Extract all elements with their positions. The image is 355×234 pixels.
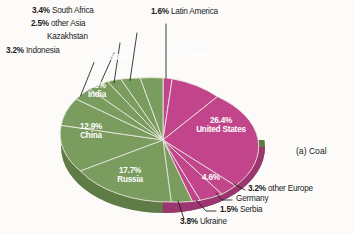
label-other-asia-pct: 2.5% bbox=[31, 19, 49, 28]
label-kazakhstan-inside-pct: 3.8% bbox=[104, 54, 134, 63]
label-latin-america-pct: 1.6% bbox=[151, 7, 169, 16]
label-australia-name: Australia bbox=[165, 49, 217, 58]
label-india-pct: 6.8% bbox=[77, 81, 117, 90]
label-india: 6.8% India bbox=[77, 81, 117, 99]
label-china-name: China bbox=[69, 131, 113, 140]
label-kazakhstan-name: Kazakhstan bbox=[47, 32, 88, 41]
label-australia-pct: 8.6% bbox=[165, 40, 217, 49]
label-south-africa-pct: 3.4% bbox=[32, 6, 50, 15]
label-other-europe: 3.2% other Europe bbox=[248, 185, 313, 194]
label-united-states-name: United States bbox=[185, 125, 257, 134]
label-south-africa: 3.4% South Africa bbox=[32, 7, 94, 16]
label-germany: Germany bbox=[236, 195, 268, 204]
label-latin-america-name: Latin America bbox=[171, 7, 218, 16]
label-other-europe-pct: 3.2% bbox=[248, 184, 266, 193]
label-indonesia-name: Indonesia bbox=[26, 46, 60, 55]
label-china-pct: 12.9% bbox=[69, 122, 113, 131]
label-china: 12.9% China bbox=[69, 122, 113, 140]
label-united-states: 26.4% United States bbox=[185, 116, 257, 134]
label-indonesia: 3.2% Indonesia bbox=[6, 47, 60, 56]
leader-line-other-asia bbox=[114, 43, 120, 83]
label-indonesia-pct: 3.2% bbox=[6, 46, 24, 55]
label-south-africa-name: South Africa bbox=[52, 6, 94, 15]
figure-pie-coal: 3.4% South Africa 2.5% other Asia Kazakh… bbox=[0, 0, 355, 234]
label-germany-inside-pct: 4.6% bbox=[196, 174, 226, 183]
label-serbia-name: Serbia bbox=[240, 205, 262, 214]
label-ukraine-pct: 3.8% bbox=[180, 217, 198, 226]
label-other-asia: 2.5% other Asia bbox=[31, 20, 85, 29]
label-germany-name: Germany bbox=[236, 194, 268, 203]
label-other-europe-name: other Europe bbox=[268, 184, 313, 193]
label-latin-america: 1.6% Latin America bbox=[151, 8, 218, 17]
figure-caption: (a) Coal bbox=[296, 146, 327, 156]
label-other-asia-name: other Asia bbox=[51, 19, 85, 28]
label-serbia-pct: 1.5% bbox=[220, 205, 238, 214]
label-india-name: India bbox=[77, 90, 117, 99]
label-russia-name: Russia bbox=[108, 175, 152, 184]
label-ukraine: 3.8% Ukraine bbox=[180, 218, 227, 227]
label-russia: 17.7% Russia bbox=[108, 166, 152, 184]
label-serbia: 1.5% Serbia bbox=[220, 206, 262, 215]
label-ukraine-name: Ukraine bbox=[200, 217, 227, 226]
label-kazakhstan: Kazakhstan bbox=[47, 33, 88, 42]
label-australia: 8.6% Australia bbox=[165, 40, 217, 58]
label-united-states-pct: 26.4% bbox=[185, 116, 257, 125]
label-russia-pct: 17.7% bbox=[108, 166, 152, 175]
